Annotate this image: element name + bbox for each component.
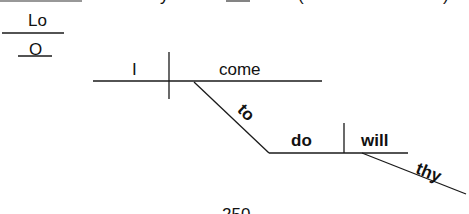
infinitive-verb-do: do xyxy=(291,132,312,149)
object-word-will: will xyxy=(361,132,388,149)
verb-word: come xyxy=(219,61,261,78)
interjection-lo: Lo xyxy=(28,12,47,29)
subject-word: I xyxy=(132,61,137,78)
top-fragment-open-paren: ( xyxy=(298,0,304,6)
interjection-o: O xyxy=(29,41,42,58)
top-fragment-close-paren: ) xyxy=(443,0,449,6)
diagram-lines xyxy=(0,0,469,214)
page-number: 250 xyxy=(222,205,250,214)
top-fragment-y: y xyxy=(160,0,169,6)
